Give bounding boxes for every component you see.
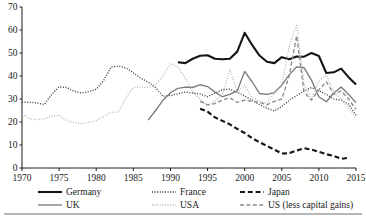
x-tick-label: 1985 xyxy=(124,173,143,183)
y-tick-label: 40 xyxy=(8,71,18,81)
legend-label-us-less-capital-gains: US (less capital gains) xyxy=(268,200,353,211)
legend-label-germany: Germany xyxy=(66,187,102,197)
y-tick-label: 50 xyxy=(8,48,18,58)
y-tick-label: 0 xyxy=(13,163,18,173)
x-tick-label: 1970 xyxy=(13,173,32,183)
y-tick-label: 70 xyxy=(8,2,18,12)
x-tick-label: 2000 xyxy=(235,173,254,183)
x-tick-label: 1980 xyxy=(87,173,106,183)
x-tick-label: 1995 xyxy=(198,173,217,183)
tax-progressivity-line-chart: 010203040506070 197019751980198519901995… xyxy=(0,0,366,218)
legend-label-france: France xyxy=(180,187,206,197)
legend-label-uk: UK xyxy=(66,200,80,210)
line-chart-figure: 010203040506070 197019751980198519901995… xyxy=(0,0,366,218)
x-tick-label: 2015 xyxy=(347,173,366,183)
chart-background xyxy=(0,0,366,218)
y-tick-label: 60 xyxy=(8,25,18,35)
x-tick-label: 2010 xyxy=(309,173,328,183)
x-tick-label: 1990 xyxy=(161,173,180,183)
y-tick-label: 30 xyxy=(8,94,18,104)
x-tick-label: 1975 xyxy=(50,173,69,183)
x-tick-label: 2005 xyxy=(272,173,291,183)
y-tick-label: 10 xyxy=(8,140,18,150)
legend-label-usa: USA xyxy=(180,200,199,210)
y-tick-label: 20 xyxy=(8,117,18,127)
legend-label-japan: Japan xyxy=(268,187,290,197)
